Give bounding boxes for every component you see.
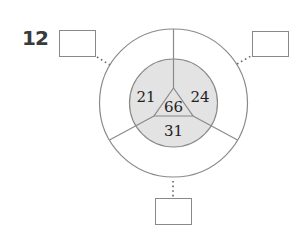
- sector-value-upper-right: 24: [190, 88, 209, 106]
- connector-top-right: [237, 56, 251, 64]
- center-value: 66: [164, 98, 183, 116]
- sector-value-upper-left: 21: [136, 88, 155, 106]
- answer-box-bottom[interactable]: [155, 198, 192, 225]
- connector-top-left: [97, 57, 110, 65]
- sector-value-bottom: 31: [164, 122, 183, 140]
- answer-box-top-right[interactable]: [252, 31, 289, 57]
- answer-box-top-left[interactable]: [59, 30, 96, 57]
